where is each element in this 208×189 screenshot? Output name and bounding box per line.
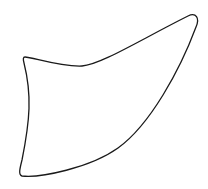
curved-shape-outline	[20, 15, 198, 177]
drawing-canvas	[0, 0, 208, 189]
